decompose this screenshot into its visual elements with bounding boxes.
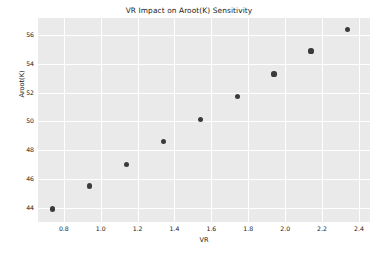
y-tick-label: 46: [16, 175, 34, 182]
scatter-point: [161, 139, 166, 144]
y-tick-label: 44: [16, 204, 34, 211]
gridline-horizontal: [38, 93, 370, 94]
x-tick-label: 1.4: [162, 225, 186, 232]
y-tick-label: 48: [16, 146, 34, 153]
gridline-horizontal: [38, 208, 370, 209]
chart-title: VR Impact on Aroot(K) Sensitivity: [0, 6, 378, 15]
gridline-vertical: [322, 18, 323, 222]
gridline-vertical: [211, 18, 212, 222]
scatter-point: [198, 117, 203, 122]
plot-area: [38, 18, 370, 222]
gridline-vertical: [64, 18, 65, 222]
gridline-horizontal: [38, 179, 370, 180]
gridline-vertical: [285, 18, 286, 222]
gridline-horizontal: [38, 35, 370, 36]
scatter-point: [235, 94, 240, 99]
gridline-vertical: [359, 18, 360, 222]
x-tick-label: 1.6: [199, 225, 223, 232]
x-tick-label: 2.0: [273, 225, 297, 232]
x-tick-label: 1.8: [236, 225, 260, 232]
gridline-horizontal: [38, 150, 370, 151]
scatter-point: [271, 71, 276, 76]
gridline-horizontal: [38, 64, 370, 65]
y-axis-label: Aroot(K): [18, 44, 26, 124]
x-tick-label: 2.2: [310, 225, 334, 232]
x-axis-label: VR: [38, 236, 370, 244]
gridline-vertical: [101, 18, 102, 222]
scatter-point: [50, 206, 55, 211]
gridline-vertical: [248, 18, 249, 222]
scatter-point: [124, 162, 129, 167]
gridline-vertical: [138, 18, 139, 222]
chart-figure: VR Impact on Aroot(K) Sensitivity 0.81.0…: [0, 0, 378, 257]
gridline-vertical: [174, 18, 175, 222]
gridline-horizontal: [38, 121, 370, 122]
x-tick-label: 1.0: [89, 225, 113, 232]
scatter-point: [308, 48, 313, 53]
x-tick-label: 1.2: [126, 225, 150, 232]
scatter-point: [345, 27, 350, 32]
x-tick-label: 2.4: [347, 225, 371, 232]
x-tick-label: 0.8: [52, 225, 76, 232]
y-tick-label: 56: [16, 31, 34, 38]
scatter-point: [87, 183, 92, 188]
